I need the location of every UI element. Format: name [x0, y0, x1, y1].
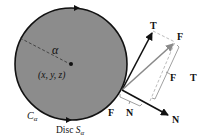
N-component-label: N: [126, 107, 134, 118]
center-coordinates-label: (x, y, z): [38, 70, 65, 81]
curve-C-alpha-label: Cα: [27, 110, 38, 123]
T-tip-label: T: [150, 20, 157, 31]
disc-label: Disc Sα: [56, 125, 85, 137]
F-tip-label: F: [177, 31, 183, 42]
alpha-label: α: [52, 43, 59, 57]
vector-F: [122, 44, 173, 90]
F-T-component-T-label: T: [190, 72, 197, 83]
stokes-disc-diagram: α (x, y, z) T F F T F N N Cα Disc Sα: [0, 0, 205, 137]
dashed-parallelogram: [150, 31, 175, 101]
center-point: [69, 62, 73, 66]
F-T-component-F-label: F: [170, 72, 176, 83]
N-tip-label: N: [172, 114, 180, 125]
F-boundary-label: F: [108, 107, 114, 118]
